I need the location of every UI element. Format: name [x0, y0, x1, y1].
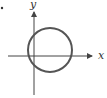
x-axis-label: x	[98, 49, 105, 62]
y-axis-label: y	[29, 0, 37, 11]
circle-shape	[28, 28, 72, 72]
coordinate-diagram: y x	[0, 0, 107, 98]
bullet-dot	[1, 7, 3, 9]
